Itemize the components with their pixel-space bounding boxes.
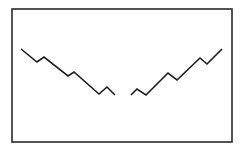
diagram-frame — [12, 9, 232, 142]
diagram-canvas — [0, 0, 244, 149]
right-zigzag-line — [131, 49, 222, 95]
left-zigzag-line — [21, 49, 115, 95]
